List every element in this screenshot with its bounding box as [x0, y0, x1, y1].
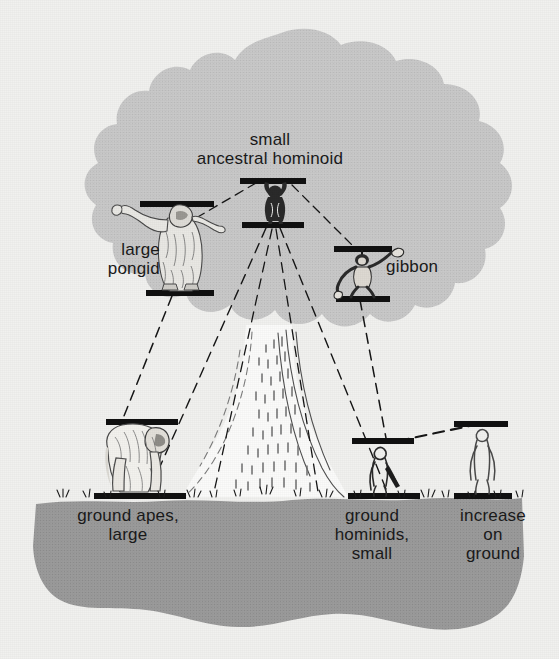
label-increase-on-ground: increase on ground	[438, 506, 548, 563]
illustration-canvas: small ancestral hominoid large pongid gi…	[0, 0, 559, 659]
label-large-pongid: large pongid	[50, 240, 160, 278]
label-small-ancestral-hominoid: small ancestral hominoid	[170, 130, 370, 168]
figure-ground-hominid	[348, 438, 420, 499]
perch-bar-gibbon-bottom	[336, 296, 390, 302]
ground-bar-hominid	[348, 493, 420, 499]
perch-bar-hominid-top	[352, 438, 414, 444]
ground-bar-ground-ape	[94, 493, 186, 499]
tree-canopy	[85, 29, 512, 327]
perch-bar-ancestral-top	[240, 178, 306, 184]
ground-ape-body	[105, 424, 169, 492]
ancestral-hominoid-body	[264, 182, 287, 224]
tree-trunk	[182, 325, 348, 497]
perch-bar-ancestral-bottom	[242, 222, 304, 228]
label-ground-hominids-small: ground hominids, small	[312, 506, 432, 563]
connection-large-pongid-to-ground-apes	[120, 296, 172, 426]
ground-hominid-body	[370, 447, 397, 496]
figure-increase-on-ground	[454, 421, 512, 499]
perch-bar-increase-top	[454, 421, 508, 427]
increase-figure-body	[470, 429, 495, 494]
ground-bar-increase	[454, 493, 512, 499]
perch-bar-ground-ape-top	[106, 419, 178, 425]
label-ground-apes-large: ground apes, large	[28, 506, 228, 544]
figure-ground-ape	[94, 419, 186, 499]
label-gibbon: gibbon	[386, 257, 496, 276]
